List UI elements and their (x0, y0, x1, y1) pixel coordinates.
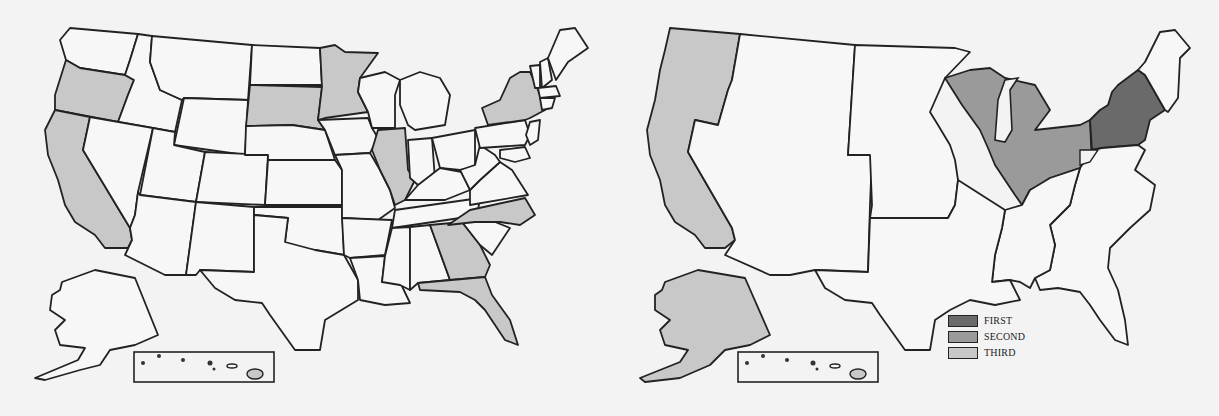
legend-swatch-first (948, 315, 978, 327)
state-arkansas (342, 218, 392, 258)
legend-label-second: SECOND (984, 331, 1025, 342)
hawaii-islands (141, 354, 263, 379)
state-arizona (125, 192, 196, 275)
region-alaska (640, 270, 770, 382)
state-montana (150, 36, 252, 100)
state-wyoming (174, 98, 248, 155)
state-colorado (196, 152, 268, 205)
left-state-map (0, 0, 610, 416)
legend-label-third: THIRD (984, 347, 1016, 358)
state-north-dakota (250, 45, 322, 85)
state-south-dakota (246, 85, 325, 130)
state-kansas (265, 160, 342, 205)
state-new-mexico (186, 202, 254, 275)
state-maryland (500, 147, 530, 162)
right-map-svg (610, 0, 1219, 416)
state-pennsylvania (475, 120, 530, 148)
state-florida (418, 277, 518, 345)
state-ohio (432, 130, 475, 170)
state-new-jersey (526, 120, 540, 145)
legend-swatch-second (948, 331, 978, 343)
state-michigan (400, 72, 450, 130)
legend: FIRST SECOND THIRD (948, 313, 1025, 361)
state-nebraska (245, 125, 335, 160)
state-alaska (35, 270, 158, 380)
hawaii-big-island (850, 369, 866, 379)
legend-item-second: SECOND (948, 329, 1025, 344)
left-map-svg (0, 0, 610, 416)
legend-swatch-third (948, 347, 978, 359)
legend-label-first: FIRST (984, 315, 1012, 326)
right-region-map: FIRST SECOND THIRD (610, 0, 1219, 416)
state-massachusetts (538, 86, 560, 98)
state-maine (548, 28, 588, 80)
legend-item-third: THIRD (948, 345, 1025, 360)
legend-item-first: FIRST (948, 313, 1025, 328)
state-connecticut (540, 98, 555, 110)
hawaii-islands (745, 354, 866, 379)
hawaii-big-island (247, 369, 263, 379)
